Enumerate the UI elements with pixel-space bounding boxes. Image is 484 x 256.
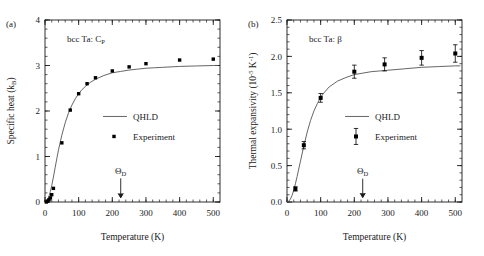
panel-a-plot: (a)010020030040050001234Temperature (K)S… (0, 0, 242, 256)
data-marker (178, 58, 181, 61)
data-marker (293, 187, 297, 191)
y-tick-label: 2 (36, 106, 41, 116)
data-marker (144, 62, 147, 65)
panel-a: (a)010020030040050001234Temperature (K)S… (0, 0, 242, 256)
data-marker (50, 193, 53, 196)
legend-marker-swatch (354, 134, 358, 138)
panel-b-plot: (b)01002003004005000.00.51.01.52.02.5Tem… (242, 0, 484, 256)
data-marker (85, 82, 88, 85)
legend-marker-swatch (112, 135, 115, 138)
y-tick-label: 1 (36, 152, 41, 162)
x-tick-label: 400 (415, 208, 429, 218)
data-marker (319, 96, 323, 100)
figure-container: (a)010020030040050001234Temperature (K)S… (0, 0, 484, 256)
y-tick-label: 0.0 (271, 197, 283, 207)
qhld-curve (45, 66, 218, 203)
data-marker (352, 70, 356, 74)
y-tick-label: 3 (36, 61, 41, 71)
experiment-points (45, 57, 215, 203)
legend-label-experiment: Experiment (375, 132, 417, 142)
y-axis-title: Thermal expansivity (10-5 K-1) (247, 53, 260, 170)
x-tick-label: 300 (381, 208, 395, 218)
data-marker (52, 187, 55, 190)
x-tick-label: 200 (348, 208, 362, 218)
legend-label-qhld: QHLD (133, 112, 158, 122)
y-tick-label: 1.5 (271, 88, 283, 98)
legend: QHLDExperiment (103, 112, 175, 142)
debye-label: ΘD (357, 166, 369, 177)
data-marker (69, 108, 72, 111)
qhld-curve (287, 66, 460, 202)
x-tick-label: 0 (285, 208, 290, 218)
debye-label: ΘD (115, 166, 127, 177)
y-tick-label: 2.5 (271, 15, 283, 25)
x-axis-title: Temperature (K) (343, 232, 406, 243)
data-marker (212, 57, 215, 60)
x-tick-label: 100 (314, 208, 328, 218)
legend: QHLDExperiment (345, 112, 417, 145)
data-marker (94, 76, 97, 79)
panel-b: (b)01002003004005000.00.51.01.52.02.5Tem… (242, 0, 484, 256)
y-axis-title: Specific heat (kB) (6, 77, 17, 144)
data-marker (60, 141, 63, 144)
data-marker (111, 69, 114, 72)
legend-label-experiment: Experiment (133, 132, 175, 142)
debye-temperature-annotation: ΘD (357, 166, 369, 197)
x-tick-label: 400 (173, 208, 187, 218)
legend-label-qhld: QHLD (375, 112, 400, 122)
x-tick-label: 300 (139, 208, 153, 218)
y-tick-label: 0.5 (271, 161, 283, 171)
data-marker (420, 56, 424, 60)
y-tick-label: 2.0 (271, 52, 283, 62)
data-marker (127, 65, 130, 68)
data-marker (77, 92, 80, 95)
data-marker (453, 51, 457, 55)
material-annotation: bcc Ta: CP (67, 34, 105, 45)
data-marker (383, 62, 387, 66)
x-tick-label: 200 (106, 208, 120, 218)
debye-temperature-annotation: ΘD (115, 166, 127, 198)
x-tick-label: 500 (207, 208, 221, 218)
y-tick-label: 4 (36, 15, 41, 25)
y-tick-label: 1.0 (271, 125, 283, 135)
x-tick-label: 100 (72, 208, 86, 218)
data-marker (49, 196, 52, 199)
x-tick-label: 0 (43, 208, 48, 218)
x-axis-title: Temperature (K) (101, 232, 164, 243)
panel-label-b: (b) (248, 19, 259, 29)
data-marker (302, 143, 306, 147)
x-tick-label: 500 (449, 208, 463, 218)
panel-label-a: (a) (6, 19, 16, 29)
material-annotation: bcc Ta: β (309, 34, 342, 44)
y-tick-label: 0 (36, 197, 41, 207)
